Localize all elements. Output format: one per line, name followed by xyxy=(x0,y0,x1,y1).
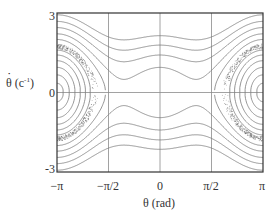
y-tick-neg3: -3 xyxy=(45,163,55,175)
phase-portrait-plot xyxy=(0,0,278,220)
x-tick-neg-pi: −π xyxy=(51,180,64,192)
grid-lines xyxy=(57,13,263,172)
y-axis-label-close: ) xyxy=(30,76,34,90)
x-tick-pi: π xyxy=(259,180,265,192)
y-axis-label: θ (c-1) xyxy=(6,76,34,91)
y-axis-label-text: θ (c xyxy=(6,76,24,90)
x-tick-neg-half-pi: −π/2 xyxy=(97,180,119,192)
x-tick-half-pi: π/2 xyxy=(203,180,218,192)
x-axis-label: θ (rad) xyxy=(143,196,175,211)
y-tick-3: 3 xyxy=(49,10,55,22)
y-tick-0: 0 xyxy=(49,87,55,99)
x-tick-zero: 0 xyxy=(157,180,163,192)
